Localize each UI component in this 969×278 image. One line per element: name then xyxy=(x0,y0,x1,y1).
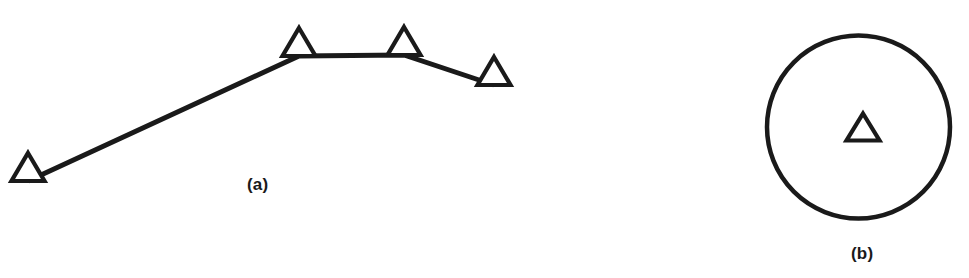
triangle-marker xyxy=(478,57,511,85)
panel-a xyxy=(12,27,511,181)
triangle-marker xyxy=(12,153,45,181)
triangle-marker xyxy=(283,28,316,56)
panel-b-caption: (b) xyxy=(851,245,873,262)
polyline-segment-path xyxy=(28,55,494,181)
triangle-marker xyxy=(847,114,880,141)
triangle-marker xyxy=(388,27,421,55)
panel-a-caption: (a) xyxy=(247,176,268,193)
figure-canvas xyxy=(0,0,969,278)
figure-container: (a) (b) xyxy=(0,0,969,278)
panel-b xyxy=(767,36,950,219)
